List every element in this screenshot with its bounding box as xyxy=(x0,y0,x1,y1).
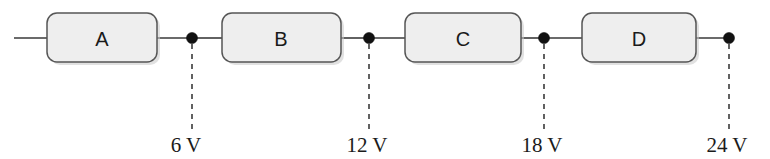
node-18v-label: 18 V xyxy=(521,133,562,157)
component-c-label: C xyxy=(456,28,470,50)
node-6v-dot xyxy=(187,33,198,44)
component-d[interactable]: D xyxy=(582,13,699,65)
component-c[interactable]: C xyxy=(405,13,524,65)
component-d-label: D xyxy=(632,28,646,50)
node-18v[interactable]: 18 V xyxy=(521,33,562,158)
node-24v-label: 24 V xyxy=(706,133,747,157)
node-6v-label: 6 V xyxy=(171,133,202,157)
node-12v-dot xyxy=(364,33,375,44)
node-12v-label: 12 V xyxy=(346,133,387,157)
node-24v[interactable]: 24 V xyxy=(706,33,747,158)
circuit-diagram: A B C D 6 V 12 V xyxy=(0,0,770,159)
node-6v[interactable]: 6 V xyxy=(171,33,202,158)
node-18v-dot xyxy=(539,33,550,44)
component-a[interactable]: A xyxy=(47,13,160,65)
component-a-label: A xyxy=(95,28,109,50)
component-b-label: B xyxy=(274,28,287,50)
node-12v[interactable]: 12 V xyxy=(346,33,387,158)
node-24v-dot xyxy=(724,33,735,44)
component-b[interactable]: B xyxy=(222,13,344,65)
diagram-canvas: A B C D 6 V 12 V xyxy=(0,0,770,159)
